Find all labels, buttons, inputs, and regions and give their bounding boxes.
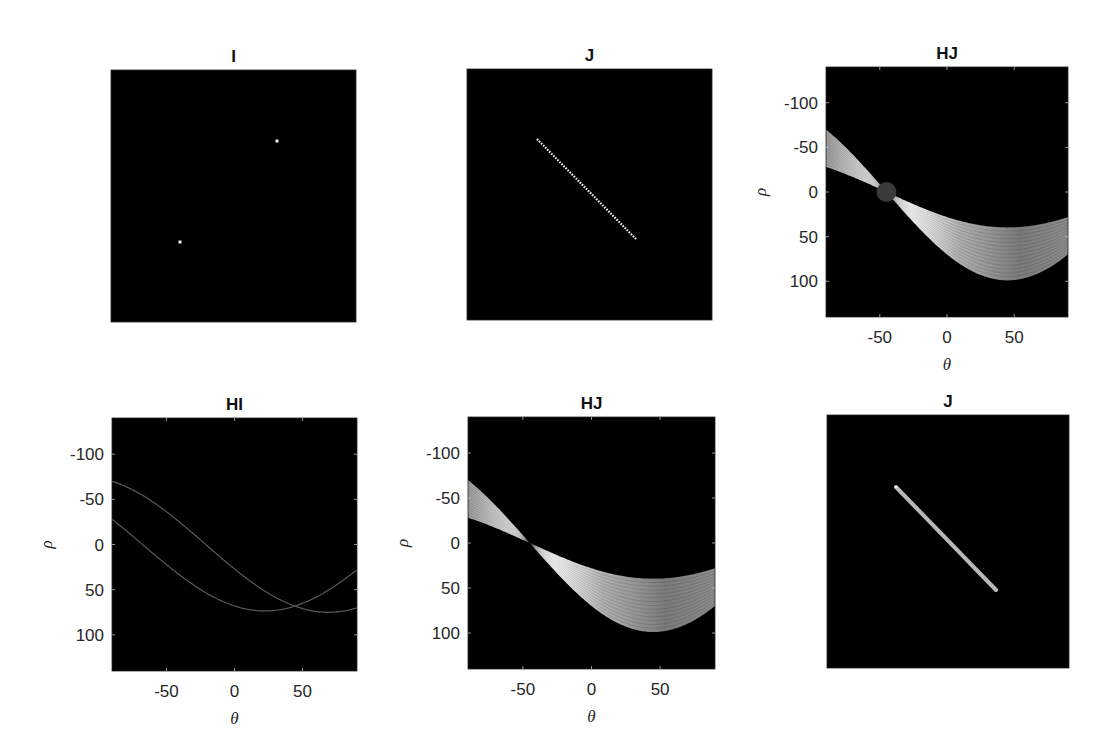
x-tick-label: 0 [230,682,239,701]
plot-area [112,418,357,671]
x-tick-label: 50 [651,680,670,699]
x-tick-label: -50 [511,680,536,699]
panel-title: I [231,47,236,66]
panel-title: J [585,46,594,65]
y-axis-label: ρ [393,539,412,548]
y-tick-label: 50 [85,581,104,600]
y-tick-label: 100 [432,624,460,643]
panel-p5: HJ-50050-100-50050100θρ [393,394,715,726]
x-tick-label: 50 [1005,328,1024,347]
y-tick-label: -50 [435,489,460,508]
x-axis-label: θ [943,355,951,374]
x-tick-label: 50 [293,682,312,701]
plot-area [111,70,356,322]
x-axis-label: θ [587,707,595,726]
plot-area [826,67,1068,317]
panel-title: HI [226,395,243,414]
y-tick-label: 0 [451,534,460,553]
peak-marker [877,182,897,202]
image-point [179,241,182,244]
panel-title: HJ [581,394,603,413]
x-tick-label: 0 [587,680,596,699]
y-axis-label: ρ [37,540,56,549]
panel-p3: HJ-50050-100-50050100θρ [751,44,1068,374]
panel-p1: I [111,47,356,322]
y-tick-label: -100 [70,445,104,464]
panel-p2: J [467,46,712,320]
panel-p4: HI-50050-100-50050100θρ [37,395,357,728]
y-tick-label: -100 [784,94,818,113]
y-tick-label: 50 [441,579,460,598]
image-point [276,140,279,143]
y-tick-label: -50 [793,138,818,157]
y-axis-label: ρ [751,188,770,197]
y-tick-label: 0 [95,536,104,555]
y-tick-label: 0 [809,183,818,202]
x-axis-label: θ [230,709,238,728]
y-tick-label: 100 [76,626,104,645]
panel-title: HJ [936,44,958,63]
panel-p6: J [827,392,1069,668]
y-tick-label: -50 [79,490,104,509]
x-tick-label: -50 [154,682,179,701]
x-tick-label: -50 [867,328,892,347]
plot-area [468,417,715,669]
y-tick-label: 50 [799,228,818,247]
x-tick-label: 0 [942,328,951,347]
panel-title: J [943,392,952,411]
figure: IJHJ-50050-100-50050100θρHI-50050-100-50… [0,0,1111,748]
y-tick-label: 100 [790,272,818,291]
plot-area [467,69,712,320]
y-tick-label: -100 [426,444,460,463]
